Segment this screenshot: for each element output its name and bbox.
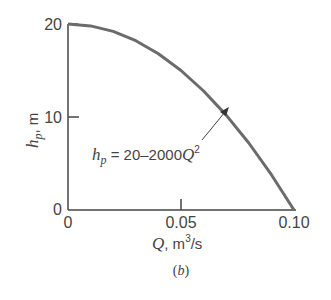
figure-caption: (b)	[173, 263, 190, 279]
y-tick-label-0: 0	[53, 201, 62, 218]
x-tick-label-0: 0	[64, 214, 73, 231]
x-tick-label-005: 0.05	[165, 214, 196, 231]
pump-curve-chart: 20 10 0 0 0.05 0.10 hp, m Q, m3/s hp = 2…	[0, 0, 331, 300]
y-axis-label: hp, m	[23, 113, 45, 148]
x-axis-label: Q, m3/s	[152, 233, 202, 253]
pump-curve	[68, 24, 294, 210]
y-tick-label-20: 20	[44, 16, 62, 33]
y-tick-label-10: 10	[44, 109, 62, 126]
annotation-arrow	[202, 112, 225, 140]
equation-annotation: hp = 20–2000Q2	[92, 144, 200, 167]
x-tick-label-010: 0.10	[278, 214, 309, 231]
